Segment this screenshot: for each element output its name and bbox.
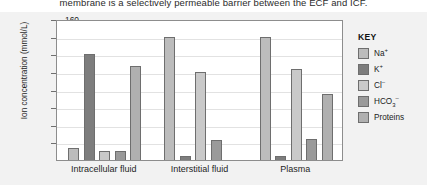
legend-item-label: Cl–	[374, 81, 385, 90]
legend-item-proteins: Proteins	[358, 111, 427, 123]
figure-page: membrane is a selectively permeable barr…	[0, 0, 427, 185]
bar-na-intracellular-fluid	[68, 148, 79, 160]
legend-item-label: K+	[374, 65, 383, 74]
gridline	[57, 39, 342, 40]
plot-area	[56, 20, 343, 161]
legend-item-cl: Cl–	[358, 79, 427, 91]
y-axis-title: Ion concentration (mmol/L)	[20, 1, 29, 141]
bar-cl-interstitial-fluid	[195, 72, 206, 160]
legend-item-label: Proteins	[374, 113, 404, 122]
bar-cl-intracellular-fluid	[99, 151, 110, 160]
bar-hco3-interstitial-fluid	[211, 140, 222, 160]
legend-swatch-icon	[358, 64, 369, 75]
bar-cl-plasma	[291, 69, 302, 160]
legend-item-label: Na+	[374, 49, 388, 58]
legend-item-k: K+	[358, 63, 427, 75]
chart-legend: KEY Na+K+Cl–HCO3–Proteins	[358, 32, 427, 127]
bar-na-interstitial-fluid	[164, 37, 175, 160]
truncated-body-text: membrane is a selectively permeable barr…	[0, 0, 427, 10]
x-axis-label-intracellular-fluid: Intracellular fluid	[56, 164, 152, 174]
legend-item-na: Na+	[358, 47, 427, 59]
x-axis-label-plasma: Plasma	[247, 164, 343, 174]
bar-hco3-plasma	[306, 139, 317, 160]
legend-title: KEY	[358, 32, 427, 42]
bar-hco3-intracellular-fluid	[115, 151, 126, 160]
x-axis-label-interstitial-fluid: Interstitial fluid	[152, 164, 248, 174]
bar-proteins-intracellular-fluid	[130, 66, 141, 160]
legend-swatch-icon	[358, 112, 369, 123]
legend-swatch-icon	[358, 80, 369, 91]
bar-k-intracellular-fluid	[84, 54, 95, 160]
gridline	[57, 56, 342, 57]
bar-na-plasma	[260, 37, 271, 160]
legend-item-hco3: HCO3–	[358, 95, 427, 107]
bar-k-interstitial-fluid	[180, 156, 191, 160]
bar-k-plasma	[275, 156, 286, 160]
chart-figure: Ion concentration (mmol/L) 2040608010012…	[0, 12, 427, 185]
legend-item-label: HCO3–	[374, 97, 399, 106]
legend-swatch-icon	[358, 48, 369, 59]
legend-swatch-icon	[358, 96, 369, 107]
bar-proteins-plasma	[322, 94, 333, 160]
